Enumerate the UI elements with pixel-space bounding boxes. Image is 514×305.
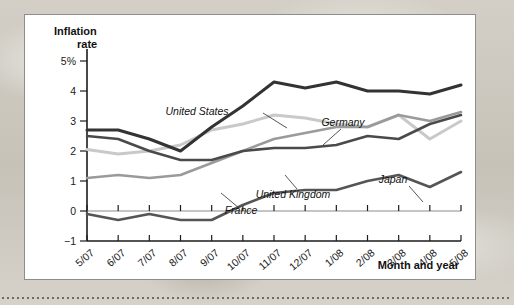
x-tick-label: 2/08 [353,246,376,268]
x-tick-label: 5/07 [73,246,96,268]
inflation-rate-line-chart: Inflation rate −1012345% 5/076/077/078/0… [25,15,475,279]
y-tick-label: 4 [70,85,76,97]
y-axis-title-line2: rate [77,38,97,50]
x-axis-title: Month and year [378,259,460,271]
y-axis-title-line1: Inflation [54,25,97,37]
x-tick-label: 9/07 [198,246,221,268]
y-tick-label: 0 [70,205,76,217]
x-tick-label: 8/07 [166,246,189,268]
x-tick-label: 7/07 [135,246,158,268]
series-line-france [87,112,461,178]
y-tick-label: 5% [61,55,76,67]
leader-line-united-kingdom [285,175,297,189]
y-tick-label: 3 [70,115,76,127]
series-label-france: France [225,204,258,216]
series-label-united-states: United States [165,105,229,117]
x-tick-label: 12/07 [287,246,315,272]
x-tick-label: 11/07 [256,246,283,272]
axes [87,49,461,241]
leader-line-germany [323,129,341,145]
y-axis-ticks: −1012345% [61,55,87,247]
y-tick-label: 1 [70,175,76,187]
y-tick-label: −1 [64,235,76,247]
x-tick-label: 1/08 [322,246,345,268]
x-tick-label: 6/07 [104,246,127,268]
y-tick-label: 2 [70,145,76,157]
series-label-united-kingdom: United Kingdom [256,188,331,200]
leader-line-japan [409,186,423,202]
series-label-japan: Japan [378,173,408,185]
decorative-dotted-rule [2,297,510,299]
series-label-germany: Germany [321,116,365,128]
x-tick-label: 10/07 [224,246,252,272]
figure-panel: Inflation rate −1012345% 5/076/077/078/0… [24,14,476,280]
